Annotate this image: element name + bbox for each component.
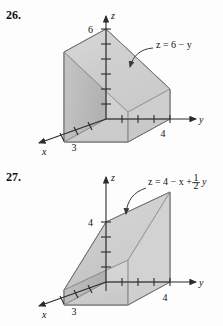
x-tick-label-3-26: 3 xyxy=(72,142,77,153)
y-tick-label-4-27: 4 xyxy=(163,292,168,303)
equation-label-27: z = 4 − x + 1 2 y xyxy=(148,172,207,191)
z-axis-label-26: z xyxy=(110,10,115,21)
diagram-26: z y x 6 3 4 z = 6 − y z = 6 − y xyxy=(0,0,223,163)
solid-27-back-face xyxy=(106,192,170,282)
figure-26: 26. xyxy=(0,0,223,163)
z-tick-label-6-26: 6 xyxy=(88,24,93,35)
x-axis-label-26: x xyxy=(41,146,47,157)
z-tick-label-4-27: 4 xyxy=(88,217,93,228)
x-axis-label-27: x xyxy=(41,309,47,320)
z-axis-label-27: z xyxy=(110,172,115,183)
figure-page: 26. xyxy=(0,0,223,326)
diagram-27: z y x 4 3 4 z = 4 − x + 1 2 y z = 4 − x … xyxy=(0,163,223,326)
equation-label-26: z = 6 − y xyxy=(156,39,192,50)
y-tick-label-4-26: 4 xyxy=(161,128,166,139)
equation-suffix-27: y xyxy=(201,176,207,187)
figure-27: 27. xyxy=(0,163,223,326)
x-tick-label-3-27: 3 xyxy=(72,306,77,317)
y-axis-label-26: y xyxy=(198,114,204,125)
y-axis-label-27: y xyxy=(198,277,204,288)
equation-frac-denominator-27: 2 xyxy=(194,180,199,191)
svg-text:z = 4 − x +: z = 4 − x + xyxy=(148,176,192,187)
